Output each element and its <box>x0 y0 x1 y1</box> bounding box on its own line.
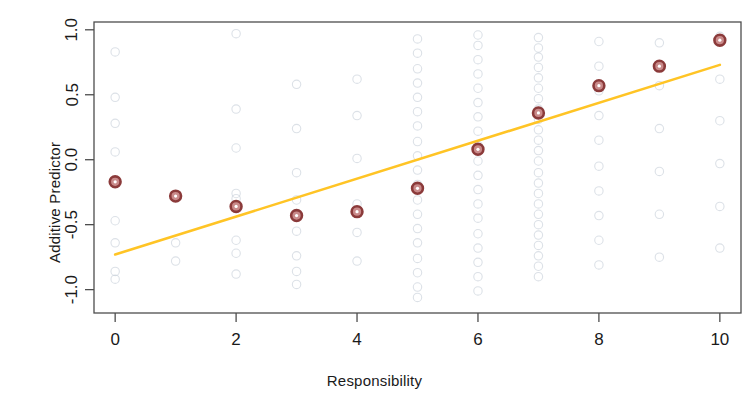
background-point <box>353 257 361 265</box>
background-point <box>413 93 421 101</box>
background-point <box>292 280 300 288</box>
background-point <box>474 127 482 135</box>
background-point <box>534 231 542 239</box>
background-point <box>353 154 361 162</box>
y-tick-label: 0.0 <box>63 148 82 172</box>
x-axis-ticks: 0246810 <box>110 313 729 349</box>
background-point <box>292 80 300 88</box>
background-point <box>534 179 542 187</box>
y-axis-ticks: -1.0-0.50.00.51.0 <box>63 18 95 304</box>
background-point <box>353 228 361 236</box>
background-point <box>595 187 603 195</box>
background-point <box>413 65 421 73</box>
background-point <box>595 62 603 70</box>
mean-point-center <box>235 205 238 208</box>
background-point <box>111 275 119 283</box>
background-point <box>474 84 482 92</box>
background-point <box>595 261 603 269</box>
background-point <box>534 94 542 102</box>
mean-point-center <box>295 214 298 217</box>
background-point <box>171 257 179 265</box>
background-point <box>474 31 482 39</box>
background-point <box>474 200 482 208</box>
background-point <box>474 230 482 238</box>
mean-marker-group <box>110 35 725 221</box>
y-tick-label: -1.0 <box>63 275 82 304</box>
background-point <box>111 267 119 275</box>
x-tick-label: 2 <box>231 330 240 349</box>
background-point <box>474 55 482 63</box>
mean-point-center <box>174 194 177 197</box>
mean-point-center <box>476 148 479 151</box>
background-point <box>413 210 421 218</box>
background-point <box>413 254 421 262</box>
background-point <box>474 244 482 252</box>
background-point <box>292 169 300 177</box>
background-point <box>534 220 542 228</box>
plot-canvas: 0246810-1.0-0.50.00.51.0 <box>0 0 749 405</box>
background-point <box>534 63 542 71</box>
background-point <box>232 249 240 257</box>
background-point <box>595 111 603 119</box>
background-point <box>474 185 482 193</box>
background-point <box>292 252 300 260</box>
plot-frame <box>94 22 741 313</box>
background-point <box>534 157 542 165</box>
background-point <box>474 41 482 49</box>
background-point <box>111 217 119 225</box>
x-tick-label: 4 <box>352 330 361 349</box>
background-point <box>353 111 361 119</box>
background-point <box>232 270 240 278</box>
background-point <box>655 167 663 175</box>
background-point <box>474 272 482 280</box>
background-point <box>232 144 240 152</box>
background-point <box>534 210 542 218</box>
background-point <box>534 126 542 134</box>
background-point <box>413 196 421 204</box>
background-point <box>474 258 482 266</box>
background-point <box>413 49 421 57</box>
background-point <box>111 239 119 247</box>
background-point <box>413 224 421 232</box>
background-point <box>111 93 119 101</box>
background-point <box>413 35 421 43</box>
background-point <box>595 162 603 170</box>
background-point <box>353 75 361 83</box>
background-point <box>595 236 603 244</box>
chart-figure: Additive Predictor Responsibility 024681… <box>0 0 749 405</box>
mean-point-center <box>114 180 117 183</box>
background-point <box>474 70 482 78</box>
background-point <box>534 84 542 92</box>
background-point <box>655 253 663 261</box>
background-point <box>716 244 724 252</box>
background-point <box>111 148 119 156</box>
mean-point-center <box>355 210 358 213</box>
background-point <box>716 202 724 210</box>
background-point <box>716 159 724 167</box>
background-point <box>474 113 482 121</box>
x-tick-label: 6 <box>473 330 482 349</box>
background-point <box>413 269 421 277</box>
background-point <box>534 169 542 177</box>
background-point <box>232 105 240 113</box>
mean-point-center <box>416 187 419 190</box>
background-scatter-group <box>111 29 724 301</box>
mean-point-center <box>597 84 600 87</box>
background-point <box>413 107 421 115</box>
background-point <box>413 283 421 291</box>
background-point <box>474 287 482 295</box>
background-point <box>171 239 179 247</box>
background-point <box>474 214 482 222</box>
background-point <box>534 272 542 280</box>
x-tick-label: 0 <box>110 330 119 349</box>
background-point <box>534 200 542 208</box>
background-point <box>232 236 240 244</box>
background-point <box>534 44 542 52</box>
background-point <box>292 124 300 132</box>
background-point <box>534 146 542 154</box>
background-point <box>474 98 482 106</box>
background-point <box>232 29 240 37</box>
background-point <box>595 211 603 219</box>
background-point <box>534 74 542 82</box>
background-point <box>292 267 300 275</box>
